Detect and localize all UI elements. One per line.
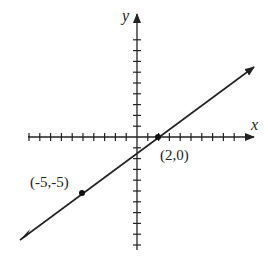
point-neg5-neg5 — [79, 190, 85, 196]
x-axis-label: x — [250, 116, 258, 133]
graph-svg: y x (2,0) (-5,-5) — [0, 0, 268, 268]
point-label-neg5-neg5: (-5,-5) — [30, 174, 69, 191]
coordinate-plane-diagram: y x (2,0) (-5,-5) — [0, 0, 268, 268]
x-axis — [28, 133, 254, 141]
point-2-0 — [155, 134, 161, 140]
point-label-2-0: (2,0) — [160, 147, 189, 164]
y-axis — [133, 14, 141, 250]
y-axis-label: y — [120, 7, 130, 25]
